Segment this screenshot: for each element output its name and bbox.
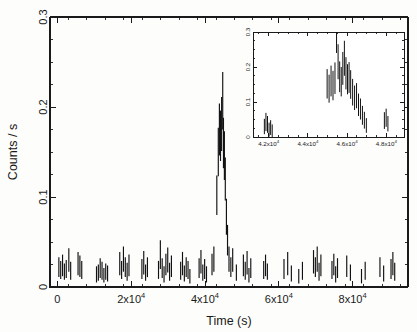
y-axis-label: Counts / s	[6, 124, 20, 180]
inset-x-tick-labels: 4.2x1044.4x1044.6x1044.8x104	[258, 139, 397, 147]
light-curve-figure: 02x1044x1046x1048x104 00.10.20.3 Time (s…	[0, 0, 417, 332]
inset-frame	[253, 32, 404, 137]
inset-y-tick-label: 0.1	[244, 97, 251, 106]
main-y-tick-label: 0	[37, 284, 49, 290]
inset-x-tick-label: 4.4x104	[297, 139, 319, 147]
main-x-tick-label: 0	[54, 293, 60, 305]
main-x-tick-label: 2x104	[117, 291, 145, 305]
main-y-tick-label: 0.3	[37, 9, 49, 24]
main-y-tick-labels: 00.10.20.3	[37, 9, 49, 290]
inset-y-tick-labels: 00.10.20.3	[244, 27, 251, 139]
main-y-tick-label: 0.1	[37, 189, 49, 204]
main-x-tick-label: 4x104	[191, 291, 219, 305]
inset-x-tick-label: 4.6x104	[337, 139, 359, 147]
inset-y-tick-label: 0	[244, 135, 251, 139]
x-axis-label: Time (s)	[206, 314, 251, 328]
main-x-tick-labels: 02x1044x1046x1048x104	[54, 291, 366, 305]
light-curve-plot: 02x1044x1046x1048x104 00.10.20.3 Time (s…	[0, 0, 417, 332]
inset-x-tick-label: 4.8x104	[376, 139, 398, 147]
main-x-tick-label: 8x104	[339, 291, 367, 305]
main-x-tick-label: 6x104	[265, 291, 293, 305]
inset-panel: 4.2x1044.4x1044.6x1044.8x104 00.10.20.3	[244, 27, 404, 147]
main-y-tick-label: 0.2	[37, 99, 49, 114]
inset-y-tick-label: 0.2	[244, 62, 251, 71]
inset-y-tick-label: 0.3	[244, 27, 251, 36]
inset-x-tick-label: 4.2x104	[258, 139, 280, 147]
